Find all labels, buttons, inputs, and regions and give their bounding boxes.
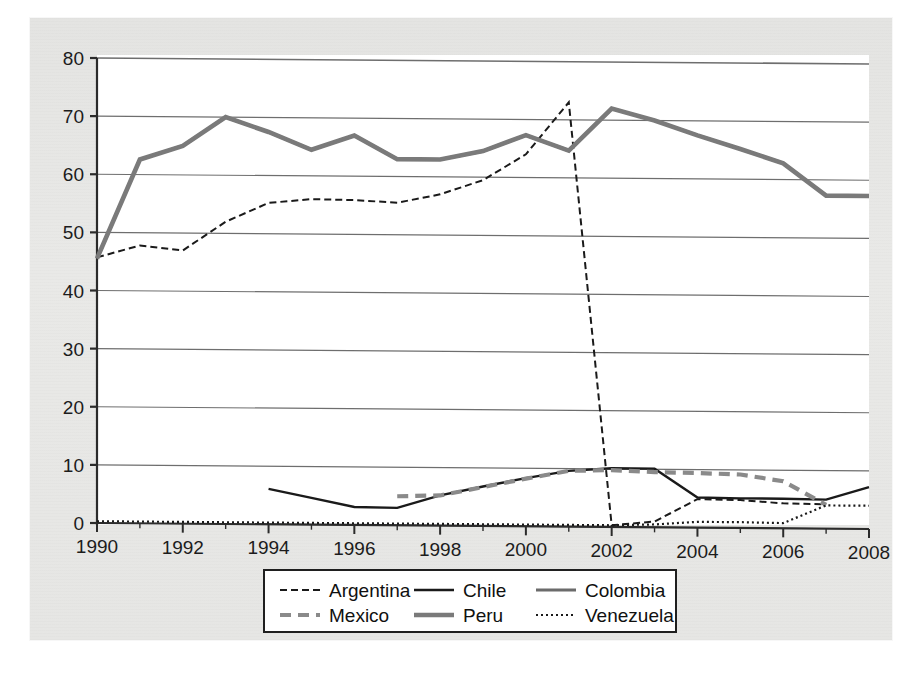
x-tick-label-1996: 1996 [333,538,375,559]
x-tick-label-1990: 1990 [76,536,118,557]
legend-label-mexico: Mexico [329,605,389,626]
y-tick-label-50: 50 [63,222,84,243]
y-tick-label-20: 20 [63,397,84,418]
y-tick-label-30: 30 [63,339,84,360]
x-tick-label-2004: 2004 [676,541,719,562]
y-tick-label-70: 70 [63,106,84,127]
y-axis [90,58,97,525]
line-chart: 01020304050607080 1990199219941996199820… [0,0,919,677]
y-tick-label-10: 10 [63,455,84,476]
legend-label-chile: Chile [463,580,506,601]
x-tick-label-1998: 1998 [419,539,461,560]
x-tick-labels: 1990199219941996199820002002200420062008 [76,536,890,563]
y-tick-label-0: 0 [73,513,84,534]
x-tick-label-2002: 2002 [591,540,633,561]
x-tick-label-2008: 2008 [848,542,890,563]
x-tick-label-2006: 2006 [762,541,804,562]
legend-label-peru: Peru [463,605,503,626]
chart-canvas: 01020304050607080 1990199219941996199820… [0,0,919,677]
x-tick-label-2000: 2000 [505,539,547,560]
legend-label-venezuela: Venezuela [585,605,674,626]
y-tick-label-40: 40 [63,281,84,302]
legend-label-argentina: Argentina [329,580,411,601]
legend-label-colombia: Colombia [585,580,666,601]
y-tick-label-60: 60 [63,164,84,185]
x-tick-label-1994: 1994 [247,537,290,558]
y-tick-labels: 01020304050607080 [63,48,84,534]
page-root: 01020304050607080 1990199219941996199820… [0,0,919,677]
x-tick-label-1992: 1992 [162,537,204,558]
chart-legend: ArgentinaChileColombiaMexicoPeruVenezuel… [264,570,676,632]
y-tick-label-80: 80 [63,48,84,69]
